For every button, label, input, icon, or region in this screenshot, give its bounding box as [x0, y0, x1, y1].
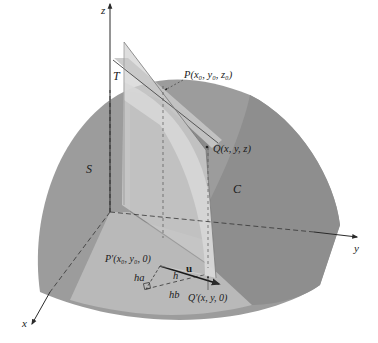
- label-h: h: [173, 270, 178, 281]
- label-Q: Q(x, y, z): [213, 143, 251, 155]
- label-u: u: [186, 262, 192, 274]
- label-S: S: [86, 162, 92, 176]
- label-C: C: [233, 182, 242, 196]
- label-ha: ha: [134, 272, 145, 283]
- label-hb: hb: [169, 289, 180, 300]
- x-axis-label: x: [21, 317, 27, 329]
- label-P: P(x₀, y₀, z₀): [183, 69, 233, 81]
- label-Q-prime: Q′(x, y, 0): [188, 292, 228, 304]
- z-axis-label: z: [100, 4, 106, 16]
- directional-derivative-diagram: z y x T S C P(x₀, y₀, z₀) Q(x, y, z) P′(…: [0, 0, 378, 343]
- x-axis: [32, 292, 50, 324]
- point-Q-marker: [206, 146, 209, 149]
- label-T: T: [113, 69, 121, 83]
- label-P-prime: P′(x₀, y₀, 0): [104, 253, 151, 265]
- y-axis-label: y: [353, 242, 359, 254]
